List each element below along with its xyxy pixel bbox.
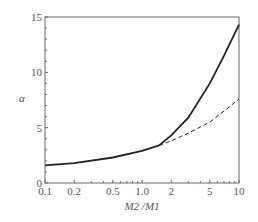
x-tick-label: 1.0 [135, 185, 149, 197]
y-tick-label: 15 [31, 11, 43, 23]
dashed-curve [159, 99, 239, 145]
y-tick-label: 5 [37, 122, 43, 134]
x-axis-label: M2 /M1 [123, 200, 159, 212]
x-tick-label: 5 [207, 185, 213, 197]
x-tick-label: 0.2 [67, 185, 81, 197]
y-tick-label: 10 [31, 66, 43, 78]
plot-frame [45, 17, 239, 183]
chart: 0510150.10.20.51.02510M2 /M1α [0, 0, 258, 222]
y-axis-label: α [19, 92, 25, 104]
x-tick-label: 0.5 [106, 185, 120, 197]
x-tick-label: 0.1 [38, 185, 52, 197]
solid-curve [45, 25, 239, 166]
x-tick-label: 10 [234, 185, 246, 197]
x-tick-label: 2 [168, 185, 174, 197]
